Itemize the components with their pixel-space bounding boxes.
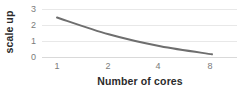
line-chart: 3 2 1 0 1 2 4 8 scale up Number of cores [0, 0, 248, 104]
x-tick-label-4: 4 [148, 62, 168, 71]
x-tick-label-8: 8 [200, 62, 220, 71]
data-line-scale-up [57, 18, 212, 55]
plot-area [0, 0, 248, 104]
x-axis-title: Number of cores [42, 75, 238, 87]
x-tick-label-1: 1 [47, 62, 67, 71]
x-tick-label-2: 2 [98, 62, 118, 71]
y-axis-title: scale up [2, 2, 16, 62]
